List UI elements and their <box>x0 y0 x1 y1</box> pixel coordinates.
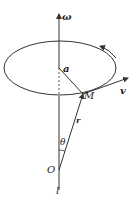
angle-theta-arc <box>59 150 65 151</box>
r-label: r <box>76 116 80 124</box>
velocity-label: v <box>120 86 126 96</box>
l-label: l <box>56 186 59 196</box>
omega-label: ω <box>62 12 72 22</box>
radius-label: a <box>63 64 69 74</box>
point-M-label: M <box>84 91 94 101</box>
origin-O-label: O <box>47 165 55 175</box>
position-vector-r <box>59 94 83 170</box>
conical-pendulum-diagram <box>0 0 135 209</box>
theta-label: θ <box>60 138 65 147</box>
circular-path <box>4 41 116 95</box>
rotation-direction-arrow <box>100 46 116 58</box>
